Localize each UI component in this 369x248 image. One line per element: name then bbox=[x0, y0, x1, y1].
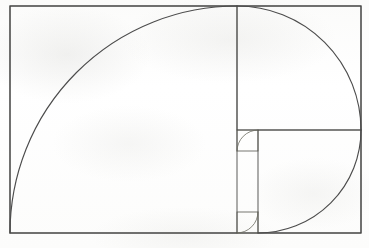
golden-spiral-figure bbox=[0, 0, 369, 248]
spiral-arc-2 bbox=[237, 6, 361, 130]
figure-canvas: Fibonacci Golden Spiral Construction bbox=[0, 0, 369, 248]
spiral-arc-5 bbox=[237, 130, 258, 151]
outer-rectangle-frame bbox=[10, 6, 361, 233]
spiral-arc-1 bbox=[10, 6, 237, 233]
spiral-arc-3 bbox=[258, 130, 361, 233]
square-3 bbox=[258, 130, 361, 233]
spiral-arc-4 bbox=[237, 212, 258, 233]
square-2 bbox=[237, 6, 361, 130]
square-1 bbox=[10, 6, 237, 233]
